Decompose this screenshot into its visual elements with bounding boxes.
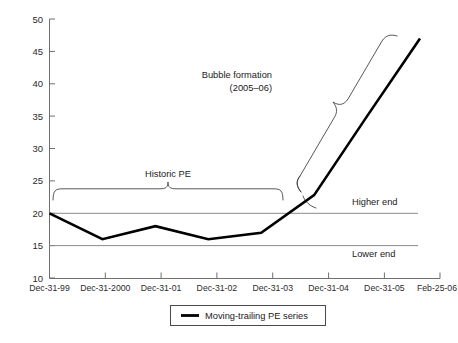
x-tick-label: Dec-31-05 <box>364 283 405 293</box>
y-tick-label: 50 <box>32 14 43 25</box>
higher-end-label: Higher end <box>352 197 397 207</box>
y-tick-label: 40 <box>32 78 43 89</box>
lower-end-label: Lower end <box>352 249 395 259</box>
x-tick-label: Dec-31-03 <box>252 283 293 293</box>
y-tick-label: 15 <box>32 240 43 251</box>
x-tick-label: Dec-31-2000 <box>80 283 130 293</box>
bubble-formation-label-line1: Bubble formation <box>202 70 272 80</box>
historic-pe-label: Historic PE <box>145 169 191 179</box>
y-tick-label: 10 <box>32 273 43 284</box>
y-tick-label: 20 <box>32 208 43 219</box>
x-tick-label: Dec-31-04 <box>308 283 349 293</box>
y-tick-label: 35 <box>32 111 43 122</box>
y-tick-label: 30 <box>32 143 43 154</box>
y-tick-label: 45 <box>32 46 43 57</box>
legend-label-series: Moving-trailing PE series <box>205 311 308 321</box>
x-tick-label: Dec-31-02 <box>197 283 238 293</box>
pe-line-chart: 50 45 40 35 30 25 20 15 10 <box>0 0 458 343</box>
x-tick-label: Dec-31-01 <box>141 283 182 293</box>
bubble-formation-label-line2: (2005–06) <box>230 83 272 93</box>
x-tick-label: Dec-31-99 <box>29 283 70 293</box>
y-tick-label: 25 <box>32 175 43 186</box>
y-axis-tick-labels: 50 45 40 35 30 25 20 15 10 <box>32 14 43 284</box>
x-tick-label: Feb-25-06 <box>417 283 457 293</box>
chart-container: 50 45 40 35 30 25 20 15 10 <box>0 0 458 343</box>
